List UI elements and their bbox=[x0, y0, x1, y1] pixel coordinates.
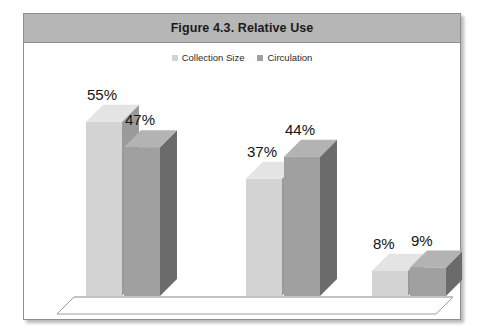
chart-plot-area: 55%47%37%44%8%9% AdultChildren'sTeen bbox=[24, 62, 462, 320]
chart-floor bbox=[57, 297, 453, 314]
bar-value-label: 47% bbox=[125, 111, 155, 128]
legend-swatch-icon bbox=[172, 55, 178, 61]
bar-value-label: 9% bbox=[411, 232, 433, 249]
bar-value-label: 37% bbox=[247, 143, 277, 160]
bar-value-label: 8% bbox=[373, 235, 395, 252]
bar-chart-svg: 55%47%37%44%8%9% AdultChildren'sTeen bbox=[24, 62, 462, 320]
figure-title: Figure 4.3. Relative Use bbox=[171, 21, 314, 35]
chart-bars bbox=[86, 105, 462, 296]
figure-container: Figure 4.3. Relative Use Collection Size… bbox=[23, 13, 461, 320]
figure-title-bar: Figure 4.3. Relative Use bbox=[24, 14, 460, 43]
legend-swatch-icon bbox=[257, 55, 263, 61]
bar-value-label: 44% bbox=[285, 121, 315, 138]
bar-value-label: 55% bbox=[87, 86, 117, 103]
